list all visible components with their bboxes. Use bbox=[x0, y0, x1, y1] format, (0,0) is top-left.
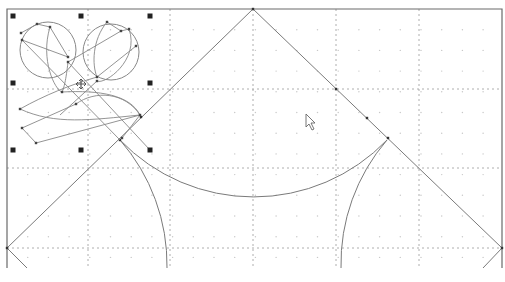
grid-dot bbox=[275, 257, 276, 258]
grid-dot bbox=[462, 174, 463, 175]
grid-dot bbox=[441, 132, 442, 133]
grid-dot bbox=[337, 70, 338, 71]
grid-dot bbox=[296, 215, 297, 216]
right-arc[interactable] bbox=[341, 140, 387, 268]
grid-dot bbox=[234, 70, 235, 71]
flower-node[interactable] bbox=[67, 56, 69, 58]
resize-handle[interactable] bbox=[148, 14, 153, 19]
flower-node[interactable] bbox=[135, 45, 137, 47]
tail-line[interactable] bbox=[7, 248, 27, 268]
flower-node[interactable] bbox=[75, 103, 77, 105]
path-node[interactable] bbox=[501, 247, 503, 249]
flower-node[interactable] bbox=[139, 114, 141, 116]
grid-dot bbox=[130, 257, 131, 258]
grid-dot bbox=[400, 70, 401, 71]
resize-handle[interactable] bbox=[11, 81, 16, 86]
flower-curve[interactable] bbox=[97, 29, 131, 81]
grid-dot bbox=[110, 195, 111, 196]
flower-node[interactable] bbox=[20, 32, 22, 34]
grid-dot bbox=[27, 257, 28, 258]
grid-dot bbox=[462, 257, 463, 258]
grid-dot bbox=[275, 174, 276, 175]
grid-dot bbox=[89, 257, 90, 258]
path-node[interactable] bbox=[366, 117, 368, 119]
flower-curve[interactable] bbox=[47, 27, 62, 92]
flower-node[interactable] bbox=[21, 39, 23, 41]
path-node[interactable] bbox=[335, 88, 337, 90]
grid-dot bbox=[400, 153, 401, 154]
flower-node[interactable] bbox=[106, 21, 108, 23]
grid-dot bbox=[275, 236, 276, 237]
grid-dot bbox=[358, 132, 359, 133]
flower-curve[interactable] bbox=[122, 115, 140, 138]
grid-dot bbox=[462, 195, 463, 196]
flower-curve[interactable] bbox=[22, 128, 36, 143]
grid-dot bbox=[379, 132, 380, 133]
flower-node[interactable] bbox=[19, 108, 21, 110]
grid-dot bbox=[482, 195, 483, 196]
resize-handle[interactable] bbox=[11, 148, 16, 153]
flower-node[interactable] bbox=[21, 127, 23, 129]
grid-dot bbox=[89, 29, 90, 30]
grid-dot bbox=[255, 50, 256, 51]
flower-node[interactable] bbox=[96, 76, 98, 78]
grid-dot bbox=[213, 112, 214, 113]
flower-curve[interactable] bbox=[21, 24, 37, 33]
grid-dot bbox=[420, 174, 421, 175]
path-node[interactable] bbox=[252, 8, 254, 10]
flower-curve[interactable] bbox=[22, 40, 68, 57]
flower-node[interactable] bbox=[35, 142, 37, 144]
grid-dot bbox=[151, 257, 152, 258]
grid-dot bbox=[337, 132, 338, 133]
grid-dot bbox=[48, 195, 49, 196]
flower-node[interactable] bbox=[36, 23, 38, 25]
drawing-canvas[interactable] bbox=[0, 0, 505, 282]
flower-node[interactable] bbox=[67, 61, 69, 63]
grid-dot bbox=[172, 91, 173, 92]
grid-dot bbox=[317, 236, 318, 237]
tail-line[interactable] bbox=[483, 248, 502, 268]
triangle-lines[interactable] bbox=[7, 9, 502, 248]
bottom-arc[interactable] bbox=[120, 140, 387, 197]
grid-dot bbox=[379, 70, 380, 71]
flower-curve[interactable] bbox=[22, 40, 120, 140]
resize-handle[interactable] bbox=[148, 81, 153, 86]
flower-curve[interactable] bbox=[60, 81, 97, 115]
resize-handle[interactable] bbox=[148, 148, 153, 153]
grid-dot bbox=[110, 112, 111, 113]
grid-dot bbox=[296, 174, 297, 175]
major-dashed-grid bbox=[7, 9, 502, 268]
flower-node[interactable] bbox=[120, 30, 122, 32]
flower-curve[interactable] bbox=[68, 62, 150, 150]
flower-curve[interactable] bbox=[20, 109, 140, 120]
grid-dot bbox=[337, 50, 338, 51]
grid-dot bbox=[234, 132, 235, 133]
flower-node[interactable] bbox=[96, 80, 98, 82]
path-node[interactable] bbox=[387, 137, 389, 139]
flower-node[interactable] bbox=[121, 137, 123, 139]
grid-dot bbox=[482, 132, 483, 133]
flower-node[interactable] bbox=[61, 91, 63, 93]
grid-dot bbox=[193, 153, 194, 154]
grid-dot bbox=[317, 153, 318, 154]
grid-dot bbox=[317, 132, 318, 133]
canvas-svg[interactable] bbox=[0, 0, 505, 282]
grid-dot bbox=[89, 132, 90, 133]
grid-dot bbox=[379, 50, 380, 51]
resize-handle[interactable] bbox=[79, 148, 84, 153]
resize-handle[interactable] bbox=[11, 14, 16, 19]
left-arc[interactable] bbox=[120, 140, 167, 268]
grid-dot bbox=[110, 29, 111, 30]
grid-dot bbox=[379, 91, 380, 92]
grid-dot bbox=[213, 29, 214, 30]
resize-handle[interactable] bbox=[79, 14, 84, 19]
grid-dot bbox=[68, 29, 69, 30]
flower-curve[interactable] bbox=[37, 24, 68, 57]
grid-dot bbox=[130, 174, 131, 175]
flower-curve[interactable] bbox=[94, 22, 107, 77]
main-shape-group[interactable] bbox=[6, 8, 503, 268]
flower-node[interactable] bbox=[49, 26, 51, 28]
flower-node[interactable] bbox=[128, 28, 130, 30]
path-node[interactable] bbox=[6, 247, 8, 249]
grid-dot bbox=[193, 132, 194, 133]
